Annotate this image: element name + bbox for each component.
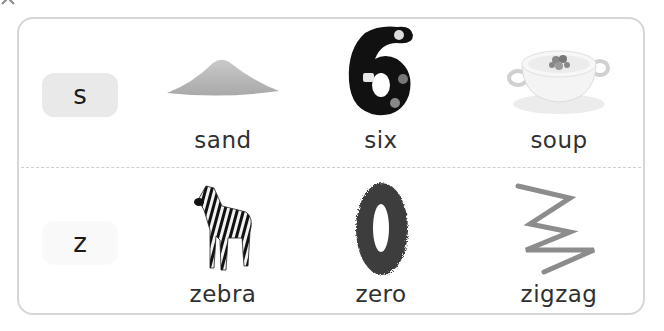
item-six: six xyxy=(301,19,461,167)
zebra-icon xyxy=(143,175,303,281)
letter-badge-s: s xyxy=(42,73,118,117)
soup-bowl-icon xyxy=(479,25,639,131)
number-six-icon xyxy=(301,25,461,131)
number-zero-icon xyxy=(301,175,461,281)
letter-badge-z: z xyxy=(42,221,118,265)
sand-pile-icon xyxy=(143,25,303,131)
item-zebra: zebra xyxy=(143,169,303,317)
word-label: six xyxy=(301,127,461,153)
row-letter-z: z zebra xyxy=(19,169,643,317)
word-label: zebra xyxy=(143,281,303,307)
word-label: zero xyxy=(301,281,461,307)
row-divider xyxy=(21,167,641,168)
phonics-card: s sand xyxy=(17,17,645,315)
item-sand: sand xyxy=(143,19,303,167)
word-label: sand xyxy=(143,127,303,153)
word-label: zigzag xyxy=(479,281,639,307)
item-zigzag: zigzag xyxy=(479,169,639,317)
item-zero: zero xyxy=(301,169,461,317)
row-letter-s: s sand xyxy=(19,19,643,167)
item-soup: soup xyxy=(479,19,639,167)
corner-mark-icon xyxy=(0,0,18,6)
zigzag-line-icon xyxy=(479,175,639,281)
word-label: soup xyxy=(479,127,639,153)
